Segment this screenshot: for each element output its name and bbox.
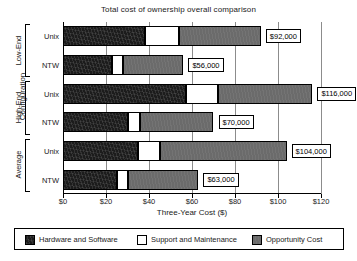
x-tick-label: $0 xyxy=(43,197,83,206)
bar-average-ntw[interactable] xyxy=(63,170,198,190)
category-label-low-end-unix: Unix xyxy=(29,32,59,41)
value-label: $70,000 xyxy=(219,115,254,129)
legend-label: Opportunity Cost xyxy=(266,235,322,244)
value-label: $92,000 xyxy=(266,29,301,43)
group-label-low-end: Low-End xyxy=(15,23,24,76)
bar-segment-hardware-and-software xyxy=(63,170,117,190)
category-label-high-end-ntw: NTW xyxy=(29,118,59,127)
category-label-average-unix: Unix xyxy=(29,147,59,156)
bar-segment-support-and-maintenance xyxy=(138,141,160,161)
legend-item-support-and-maintenance[interactable]: Support and Maintenance xyxy=(137,233,237,246)
bar-segment-opportunity-cost xyxy=(179,26,261,46)
chart-title: Total cost of ownership overall comparis… xyxy=(0,5,357,14)
value-label: $63,000 xyxy=(203,173,238,187)
bar-high-end-unix[interactable] xyxy=(63,84,312,104)
bar-segment-hardware-and-software xyxy=(63,112,128,132)
bar-low-end-ntw[interactable] xyxy=(63,55,183,75)
value-label: $116,000 xyxy=(317,87,356,101)
category-label-average-ntw: NTW xyxy=(29,176,59,185)
chart-legend: Hardware and SoftwareSupport and Mainten… xyxy=(14,228,344,250)
bar-segment-opportunity-cost xyxy=(218,84,313,104)
x-tick-label: $40 xyxy=(129,197,169,206)
value-label: $104,000 xyxy=(292,144,331,158)
group-label-high-end: High-End xyxy=(15,81,24,134)
category-label-high-end-unix: Unix xyxy=(29,90,59,99)
bar-segment-hardware-and-software xyxy=(63,84,186,104)
x-tick-label: $20 xyxy=(86,197,126,206)
bar-segment-support-and-maintenance xyxy=(145,26,179,46)
legend-item-hardware-and-software[interactable]: Hardware and Software xyxy=(25,233,118,246)
legend-swatch-icon xyxy=(25,235,35,245)
x-axis-title: Three-Year Cost ($) xyxy=(63,208,321,217)
bar-high-end-ntw[interactable] xyxy=(63,112,214,132)
legend-label: Support and Maintenance xyxy=(151,235,237,244)
legend-swatch-icon xyxy=(252,235,262,245)
legend-label: Hardware and Software xyxy=(39,235,118,244)
plot-frame xyxy=(63,22,321,194)
x-tick-label: $120 xyxy=(301,197,341,206)
x-tick-label: $100 xyxy=(258,197,298,206)
bar-low-end-unix[interactable] xyxy=(63,26,261,46)
chart-container: Total cost of ownership overall comparis… xyxy=(0,0,357,261)
bar-segment-opportunity-cost xyxy=(123,55,183,75)
bar-segment-opportunity-cost xyxy=(160,141,287,161)
legend-item-opportunity-cost[interactable]: Opportunity Cost xyxy=(252,233,322,246)
legend-swatch-icon xyxy=(137,235,147,245)
bar-segment-hardware-and-software xyxy=(63,26,145,46)
x-tick-label: $80 xyxy=(215,197,255,206)
bar-segment-hardware-and-software xyxy=(63,141,138,161)
bar-segment-hardware-and-software xyxy=(63,55,112,75)
group-label-average: Average xyxy=(15,138,24,191)
bar-segment-support-and-maintenance xyxy=(117,170,128,190)
category-label-low-end-ntw: NTW xyxy=(29,61,59,70)
bar-segment-support-and-maintenance xyxy=(128,112,141,132)
x-tick-label: $60 xyxy=(172,197,212,206)
value-label: $56,000 xyxy=(188,58,223,72)
bar-segment-support-and-maintenance xyxy=(112,55,123,75)
bar-segment-opportunity-cost xyxy=(140,112,213,132)
bar-average-unix[interactable] xyxy=(63,141,287,161)
bar-segment-support-and-maintenance xyxy=(186,84,218,104)
bar-segment-opportunity-cost xyxy=(128,170,199,190)
gridline xyxy=(321,22,322,194)
plot-area xyxy=(63,22,321,194)
